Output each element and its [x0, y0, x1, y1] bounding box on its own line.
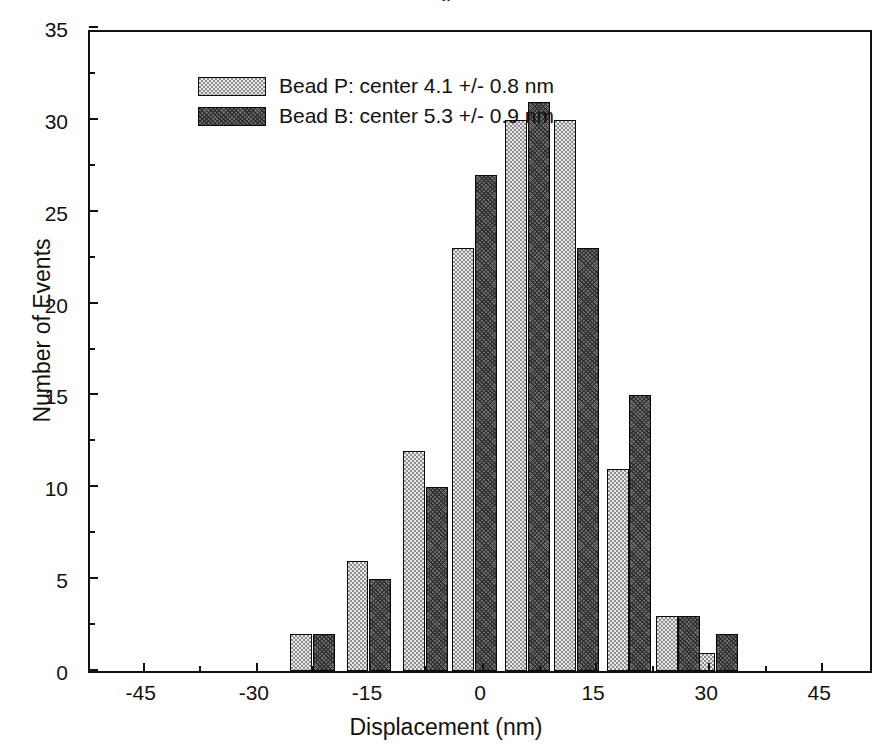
dark-hatched-swatch: [198, 107, 266, 126]
x-tick-0: [482, 663, 484, 672]
bar-bead-p-22.5: [607, 469, 629, 671]
y-minor-tick: [89, 439, 95, 441]
y-minor-tick: [89, 531, 95, 533]
legend-label: Bead B: center 5.3 +/- 0.9 nm: [279, 104, 554, 128]
x-tick-label-0: 0: [474, 681, 486, 705]
x-tick-label--15: -15: [352, 681, 382, 705]
bar-bead-b-22.5: [629, 395, 651, 671]
bar-bead-b-15: [577, 248, 599, 671]
y-tick-10: [89, 485, 98, 487]
y-tick-label-0: 0: [56, 661, 68, 685]
bar-bead-p-7.5: [505, 120, 527, 671]
x-tick-45: [821, 663, 823, 672]
bar-bead-p-0: [452, 248, 474, 671]
y-minor-tick: [89, 348, 95, 350]
x-tick-label--45: -45: [126, 681, 156, 705]
y-tick-label-5: 5: [56, 569, 68, 593]
bar-bead-b--15: [369, 579, 391, 671]
x-minor-tick: [425, 666, 427, 672]
bar-bead-b--22.5: [313, 634, 335, 671]
x-minor-tick: [539, 666, 541, 672]
x-tick--30: [256, 663, 258, 672]
legend: Bead P: center 4.1 +/- 0.8 nmBead B: cen…: [198, 74, 554, 128]
x-minor-tick: [312, 666, 314, 672]
legend-entry-bead-p: Bead P: center 4.1 +/- 0.8 nm: [198, 74, 554, 98]
bar-bead-b-undefined: [716, 634, 738, 671]
bar-bead-p--22.5: [290, 634, 312, 671]
y-tick-0: [89, 669, 98, 671]
y-tick-20: [89, 302, 98, 304]
histogram-figure: y 05101520253035 Bead P: center 4.1 +/- …: [0, 0, 892, 755]
y-tick-30: [89, 118, 98, 120]
y-tick-35: [89, 26, 98, 28]
bar-bead-b-0: [475, 175, 497, 671]
x-tick--15: [369, 663, 371, 672]
bar-bead-p-30: [656, 616, 678, 671]
x-tick-30: [708, 663, 710, 672]
bar-bead-p--7.5: [403, 451, 425, 671]
bar-bead-p-15: [554, 120, 576, 671]
y-minor-tick: [89, 164, 95, 166]
bar-bead-p--15: [347, 561, 369, 671]
figure-title-partial: y: [0, 0, 892, 1]
x-minor-tick: [199, 666, 201, 672]
plot-area: Bead P: center 4.1 +/- 0.8 nmBead B: cen…: [88, 30, 872, 673]
legend-label: Bead P: center 4.1 +/- 0.8 nm: [279, 74, 554, 98]
light-dotted-swatch: [198, 77, 266, 96]
bar-bead-b--7.5: [426, 487, 448, 671]
y-minor-tick: [89, 256, 95, 258]
x-axis-title: Displacement (nm): [0, 714, 892, 741]
x-tick-label--30: -30: [239, 681, 269, 705]
y-axis-title: Number of Events: [29, 31, 56, 631]
x-tick-label-15: 15: [581, 681, 604, 705]
x-tick-label-30: 30: [694, 681, 717, 705]
y-tick-5: [89, 577, 98, 579]
y-tick-25: [89, 210, 98, 212]
bar-bead-b-7.5: [528, 102, 550, 672]
x-minor-tick: [765, 666, 767, 672]
bar-bead-b-30: [678, 616, 700, 671]
x-minor-tick: [652, 666, 654, 672]
y-tick-15: [89, 393, 98, 395]
x-tick--45: [143, 663, 145, 672]
legend-entry-bead-b: Bead B: center 5.3 +/- 0.9 nm: [198, 104, 554, 128]
x-tick-15: [595, 663, 597, 672]
y-minor-tick: [89, 623, 95, 625]
x-tick-label-45: 45: [808, 681, 831, 705]
y-minor-tick: [89, 72, 95, 74]
